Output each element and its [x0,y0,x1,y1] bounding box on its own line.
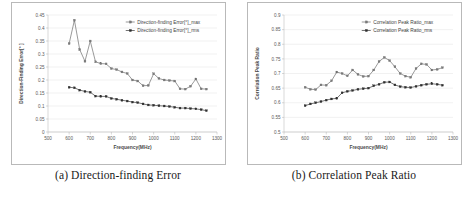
y-tick-label: 0.3 [38,52,45,57]
data-point [115,98,117,100]
data-point [362,75,364,77]
data-point [351,69,353,71]
data-point [194,78,196,80]
y-tick-label: 0.5 [274,130,281,135]
data-point [367,75,369,77]
x-tick-label: 1000 [148,136,159,141]
y-tick-label: 0.7 [274,71,281,76]
data-point [404,75,406,77]
data-point [393,84,395,86]
data-point [367,87,369,89]
data-point [341,73,343,75]
data-point [110,98,112,100]
legend-label: Direction-finding Error[°]_max [137,20,201,25]
data-point [320,101,322,103]
data-point [94,95,96,97]
data-point [205,110,207,112]
data-point [430,83,432,85]
data-point [409,76,411,78]
data-point [136,102,138,104]
data-point [189,85,191,87]
legend-entry: Correlation Peak Ratio_max [361,20,433,25]
data-point [372,85,374,87]
data-point [388,60,390,62]
direction-finding-error-chart: 00.050.10.150.20.250.30.350.40.455006007… [12,3,225,164]
data-point [78,49,80,51]
data-point [110,68,112,70]
data-point [189,108,191,110]
x-tick-label: 1000 [384,136,395,141]
data-point [131,79,133,81]
data-point [84,60,86,62]
x-tick-label: 700 [322,136,330,141]
data-point [346,90,348,92]
legend-label: Correlation Peak Ratio_rms [373,28,433,33]
y-tick-label: 0.25 [35,65,44,70]
data-point [184,88,186,90]
data-point [73,19,75,21]
y-tick-label: 0.65 [271,86,280,91]
data-point [341,92,343,94]
x-tick-label: 1300 [447,136,458,141]
data-point [335,71,337,73]
y-tick-label: 0.85 [271,27,280,32]
chart-frame-b: 0.50.550.60.650.70.750.80.850.9500600700… [247,2,462,165]
legend-label: Direction-finding Error[°]_rms [137,28,199,33]
x-tick-label: 1200 [190,136,201,141]
data-point [142,85,144,87]
x-tick-label: 1300 [211,136,222,141]
data-point [89,40,91,42]
x-tick-label: 1100 [405,136,415,141]
data-point [99,63,101,65]
x-tick-label: 1100 [169,136,179,141]
data-point [157,105,159,107]
data-point [420,84,422,86]
y-axis-title: Direction-Finding Error[° ] [19,43,24,104]
x-axis-title: Frequency(MHz) [349,145,387,150]
data-point [320,84,322,86]
data-point [120,99,122,101]
data-point [356,73,358,75]
data-point [362,88,364,90]
data-point [142,103,144,105]
y-axis-title: Correlation Peak Ratio [255,47,260,99]
data-point [168,106,170,108]
data-point [304,105,306,107]
data-point [89,91,91,93]
data-point [420,63,422,65]
data-point [131,101,133,103]
data-point [351,90,353,92]
data-point [173,106,175,108]
data-point [152,73,154,75]
data-point [68,86,70,88]
data-point [372,69,374,71]
data-point [356,88,358,90]
data-point [152,104,154,106]
data-point [314,89,316,91]
x-tick-label: 600 [65,136,73,141]
data-point [126,100,128,102]
legend-entry: Correlation Peak Ratio_rms [361,28,432,33]
data-point [205,88,207,90]
data-point [184,107,186,109]
figure-panel-a: 00.050.10.150.20.250.30.350.40.455006007… [0,0,236,203]
y-tick-label: 0.75 [271,57,280,62]
data-point [163,105,165,107]
y-tick-label: 0.9 [274,13,281,18]
data-point [404,86,406,88]
data-point [346,75,348,77]
data-point [309,88,311,90]
figure-row: 00.050.10.150.20.250.30.350.40.455006007… [0,0,473,203]
y-tick-label: 0.1 [38,104,45,109]
panel-b-caption: (b) Correlation Peak Ratio [292,169,416,181]
x-tick-label: 800 [343,136,351,141]
data-point [179,107,181,109]
figure-panel-b: 0.50.550.60.650.70.750.80.850.9500600700… [236,0,472,203]
data-point [147,104,149,106]
data-point [399,73,401,75]
data-point [425,83,427,85]
data-point [157,77,159,79]
data-point [425,63,427,65]
x-tick-label: 800 [107,136,115,141]
data-point [383,81,385,83]
